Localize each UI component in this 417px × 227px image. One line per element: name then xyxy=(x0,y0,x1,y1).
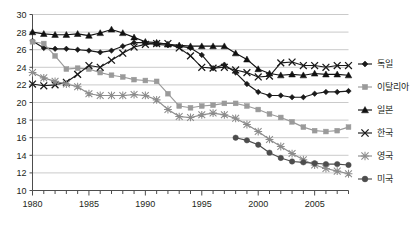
data-point-diamond xyxy=(278,93,283,98)
data-point-square xyxy=(143,78,148,83)
y-tick-label: 20 xyxy=(16,98,26,108)
data-point-asterisk xyxy=(277,143,285,151)
y-tick-label: 18 xyxy=(16,116,26,126)
data-point-x xyxy=(119,50,126,57)
data-point-asterisk xyxy=(108,92,116,100)
data-point-square xyxy=(211,103,216,108)
x-tick-label: 2000 xyxy=(248,199,268,209)
data-point-diamond xyxy=(75,47,80,52)
data-point-x xyxy=(187,52,194,59)
data-point-triangle xyxy=(108,26,115,32)
data-point-square xyxy=(199,104,204,109)
legend: 독일이탈리아일본한국영국미국 xyxy=(358,59,410,184)
data-point-asterisk xyxy=(29,69,37,77)
data-point-square xyxy=(267,112,272,117)
y-tick-label: 28 xyxy=(16,28,26,38)
legend-item-3[interactable]: 한국 xyxy=(358,128,393,138)
data-point-square xyxy=(290,119,295,124)
data-point-square xyxy=(222,101,227,106)
data-point-asterisk xyxy=(266,136,274,144)
data-point-asterisk xyxy=(40,74,48,82)
legend-label: 일본 xyxy=(377,105,393,115)
y-tick-label: 24 xyxy=(16,63,26,73)
data-point-circle xyxy=(267,150,272,155)
data-point-square xyxy=(75,66,80,71)
y-tick-label: 30 xyxy=(16,10,26,20)
y-tick-label: 22 xyxy=(16,80,26,90)
data-point-diamond xyxy=(267,93,272,98)
data-point-diamond xyxy=(86,48,91,53)
legend-item-0[interactable]: 독일 xyxy=(358,59,393,69)
legend-item-2[interactable]: 일본 xyxy=(358,105,393,115)
data-point-square xyxy=(324,129,329,134)
data-point-x xyxy=(108,57,115,64)
data-point-square xyxy=(30,39,35,44)
data-point-square xyxy=(154,79,159,84)
data-point-diamond xyxy=(335,89,340,94)
legend-label: 한국 xyxy=(377,128,393,138)
x-tick-label: 1980 xyxy=(22,199,42,209)
data-point-asterisk xyxy=(96,92,104,100)
data-point-square xyxy=(335,128,340,133)
data-point-diamond xyxy=(98,50,103,55)
series-line xyxy=(33,73,349,174)
data-point-diamond xyxy=(52,46,57,51)
data-point-circle xyxy=(362,176,368,182)
data-point-square xyxy=(233,101,238,106)
legend-label: 이탈리아 xyxy=(377,82,410,92)
data-point-asterisk xyxy=(164,106,172,114)
data-point-square xyxy=(362,84,367,89)
y-axis-labels: 3028262422201816141210 xyxy=(16,10,32,196)
y-tick-label: 10 xyxy=(16,186,26,196)
data-point-circle xyxy=(301,160,306,165)
gridlines xyxy=(33,15,349,173)
data-point-triangle xyxy=(232,50,239,56)
data-point-circle xyxy=(233,135,238,140)
x-axis-labels: 198019851990199520002005 xyxy=(22,191,348,209)
data-point-circle xyxy=(244,138,249,143)
data-point-square xyxy=(41,41,46,46)
data-point-circle xyxy=(256,142,261,147)
data-point-asterisk xyxy=(243,121,251,129)
legend-item-5[interactable]: 미국 xyxy=(358,174,393,184)
line-chart: 3028262422201816141210198019851990199520… xyxy=(0,0,417,227)
legend-label: 독일 xyxy=(377,59,393,69)
data-point-square xyxy=(245,104,250,109)
data-point-asterisk xyxy=(361,152,369,160)
data-point-circle xyxy=(335,161,340,166)
data-point-asterisk xyxy=(288,150,296,158)
data-point-circle xyxy=(289,159,294,164)
data-point-asterisk xyxy=(51,77,59,85)
data-point-diamond xyxy=(323,89,328,94)
legend-item-1[interactable]: 이탈리아 xyxy=(358,82,410,92)
x-tick-label: 1985 xyxy=(79,199,99,209)
x-tick-label: 1995 xyxy=(192,199,212,209)
data-point-square xyxy=(64,67,69,72)
data-point-asterisk xyxy=(141,92,149,100)
data-point-asterisk xyxy=(175,113,183,121)
data-point-square xyxy=(120,75,125,80)
data-point-diamond xyxy=(301,95,306,100)
data-point-asterisk xyxy=(153,96,161,104)
data-point-asterisk xyxy=(209,109,217,117)
data-point-asterisk xyxy=(119,92,127,100)
data-point-square xyxy=(346,125,351,130)
legend-item-4[interactable]: 영국 xyxy=(358,151,393,161)
data-point-square xyxy=(256,107,261,112)
data-point-diamond xyxy=(346,88,351,93)
data-point-square xyxy=(177,104,182,109)
data-point-diamond xyxy=(120,43,125,48)
data-point-diamond xyxy=(64,46,69,51)
data-point-square xyxy=(278,115,283,120)
data-point-diamond xyxy=(362,61,368,67)
data-point-square xyxy=(132,77,137,82)
data-point-square xyxy=(53,53,58,58)
x-tick-label: 2005 xyxy=(305,199,325,209)
chart-container: 3028262422201816141210198019851990199520… xyxy=(0,0,417,227)
data-point-asterisk xyxy=(333,167,341,175)
data-point-square xyxy=(312,128,317,133)
x-tick-label: 1990 xyxy=(135,199,155,209)
data-point-diamond xyxy=(289,95,294,100)
y-tick-label: 12 xyxy=(16,168,26,178)
data-point-asterisk xyxy=(220,111,228,119)
